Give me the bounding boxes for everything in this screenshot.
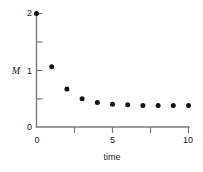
y-tick-label-2: 2 [27,8,32,18]
x-tick-marks [75,127,189,133]
x-tick-label-10: 10 [183,135,193,145]
x-tick-label-0: 0 [34,135,39,145]
scatter-chart: 2 1 0 0 5 10 M time [0,0,203,172]
data-point [64,86,69,91]
x-tick-label-5: 5 [110,135,115,145]
x-axis-title: time [103,152,120,162]
data-point [156,103,161,108]
y-axis-title: M [11,65,21,76]
data-point [125,102,130,107]
y-tick-marks [37,14,43,100]
plot-area: 2 1 0 0 5 10 M time [0,0,203,172]
data-point [186,103,191,108]
y-tick-label-1: 1 [27,66,32,76]
data-point [49,64,54,69]
data-point [95,100,100,105]
data-point [171,103,176,108]
data-point [110,102,115,107]
y-tick-label-0: 0 [27,122,32,132]
data-point-group [34,11,191,108]
data-point [80,96,85,101]
data-point [34,11,39,16]
data-point [140,103,145,108]
axes-group [37,13,190,127]
